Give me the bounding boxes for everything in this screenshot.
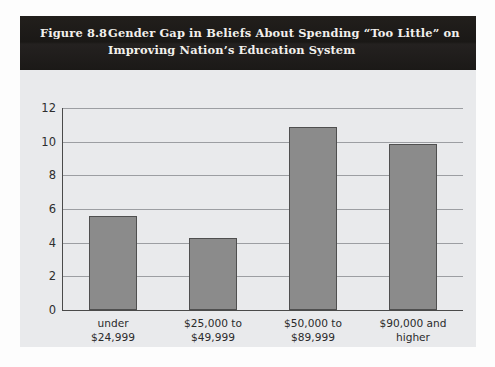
- y-axis-tick-label: 10: [41, 135, 56, 149]
- bar-4: [389, 144, 437, 310]
- y-axis-tick-label: 12: [41, 101, 56, 115]
- y-axis-tick-label: 8: [49, 168, 56, 182]
- figure-title-banner: Figure 8.8Gender Gap in Beliefs About Sp…: [20, 16, 476, 70]
- bar-chart-plot-area: 024681012under $24,999$25,000 to $49,999…: [62, 108, 463, 311]
- figure-title-text: Figure 8.8Gender Gap in Beliefs About Sp…: [40, 25, 462, 59]
- bar-1: [89, 216, 137, 310]
- x-axis-tick-label: $90,000 and higher: [358, 317, 468, 344]
- chart-region: 024681012under $24,999$25,000 to $49,999…: [20, 70, 476, 347]
- gridline-10: [63, 142, 463, 143]
- figure-title-line-2: Improving Nation’s Education System: [40, 42, 462, 59]
- gridline-12: [63, 108, 463, 109]
- figure-title-line-1: Figure 8.8Gender Gap in Beliefs About Sp…: [40, 25, 462, 42]
- x-axis-tick-label: $25,000 to $49,999: [158, 317, 268, 344]
- y-axis-tick-label: 6: [49, 202, 56, 216]
- bar-2: [189, 238, 237, 310]
- y-axis-tick-label: 2: [49, 269, 56, 283]
- figure-card: Figure 8.8Gender Gap in Beliefs About Sp…: [20, 16, 476, 347]
- x-axis-tick-label: $50,000 to $89,999: [258, 317, 368, 344]
- y-axis-tick-label: 0: [49, 303, 56, 317]
- plot-inner: 024681012under $24,999$25,000 to $49,999…: [63, 108, 463, 310]
- figure-title-main: Gender Gap in Beliefs About Spending “To…: [108, 26, 460, 40]
- y-axis-tick-label: 4: [49, 236, 56, 250]
- screenshot-root: Figure 8.8Gender Gap in Beliefs About Sp…: [0, 0, 495, 367]
- bar-3: [289, 127, 337, 310]
- x-axis-tick-label: under $24,999: [58, 317, 168, 344]
- figure-number: Figure 8.8: [40, 25, 108, 42]
